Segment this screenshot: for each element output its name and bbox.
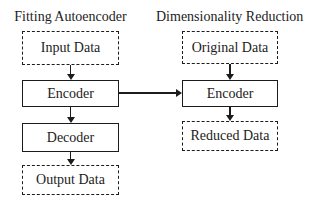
right-column-title: Dimensionality Reduction: [156, 9, 296, 25]
node-encoder-right: Encoder: [182, 80, 278, 107]
node-original-data-label: Original Data: [192, 40, 269, 56]
left-column-title: Fitting Autoencoder: [0, 9, 141, 25]
arrow-stem: [119, 92, 176, 94]
node-decoder: Decoder: [22, 123, 119, 152]
node-encoder-left: Encoder: [22, 80, 119, 107]
node-output-data-label: Output Data: [36, 172, 105, 188]
arrow-stem: [70, 65, 72, 74]
node-encoder-left-label: Encoder: [47, 86, 94, 102]
arrow-head-right-icon: [176, 89, 182, 97]
arrow-original-to-encoder: [226, 64, 235, 80]
arrow-encoder-to-decoder: [66, 107, 75, 123]
autoencoder-diagram: Fitting Autoencoder Dimensionality Reduc…: [0, 0, 319, 206]
node-decoder-label: Decoder: [47, 130, 94, 146]
arrow-encoder-to-reduced: [226, 107, 235, 121]
node-input-data: Input Data: [22, 31, 119, 65]
node-reduced-data: Reduced Data: [182, 121, 278, 151]
arrow-stem: [70, 107, 72, 117]
arrow-stem: [229, 64, 231, 74]
arrow-head-down-icon: [67, 74, 75, 80]
arrow-stem: [70, 152, 72, 159]
arrow-decoder-to-output: [66, 152, 75, 165]
arrow-encoder-to-encoder: [119, 89, 182, 98]
arrow-head-down-icon: [226, 74, 234, 80]
node-original-data: Original Data: [182, 31, 278, 64]
node-reduced-data-label: Reduced Data: [191, 128, 270, 144]
arrow-stem: [229, 107, 231, 115]
arrow-head-down-icon: [67, 117, 75, 123]
node-output-data: Output Data: [22, 165, 119, 195]
node-encoder-right-label: Encoder: [207, 86, 254, 102]
arrow-input-to-encoder: [66, 65, 75, 80]
node-input-data-label: Input Data: [41, 40, 100, 56]
arrow-head-down-icon: [67, 159, 75, 165]
arrow-head-down-icon: [226, 115, 234, 121]
